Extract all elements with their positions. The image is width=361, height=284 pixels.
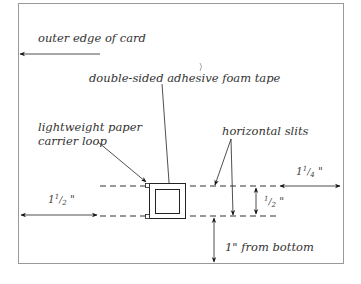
from-bottom-label: 1" from bottom: [225, 240, 314, 254]
right-dimension-label: 11/4 ": [296, 165, 323, 179]
horizontal-slits-label: horizontal slits: [222, 124, 309, 138]
slit-leader-bottom: [231, 139, 233, 215]
left-dimension-label: 11/2 ": [48, 193, 75, 207]
tape-tick: [200, 63, 202, 71]
carrier-loop-label-2: carrier loop: [38, 134, 107, 148]
gap-dimension-label: 1/2 ": [264, 195, 284, 209]
carrier-loop-label-1: lightweight paper: [38, 120, 144, 134]
foam-tape-label: double-sided adhesive foam tape: [89, 71, 281, 85]
foam-tape: [156, 190, 180, 214]
slit-leader-top: [215, 139, 231, 185]
carrier-loop-tab-bottom: [146, 215, 150, 219]
carrier-loop-tab-top: [146, 184, 150, 188]
carrier-loop-leader: [98, 142, 146, 182]
foam-tape-leader: [162, 84, 170, 196]
outer-edge-label: outer edge of card: [38, 31, 146, 45]
card-diagram: outer edge of card double-sided adhesive…: [0, 0, 361, 284]
